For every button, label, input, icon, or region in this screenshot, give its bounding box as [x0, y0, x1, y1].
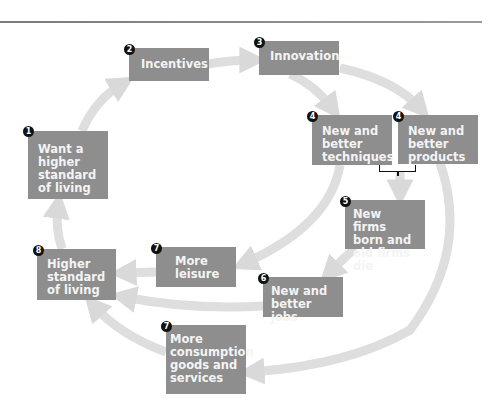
- node-new-firms: New firms born and old firms die: [345, 200, 425, 249]
- step-marker-6: 6: [258, 273, 269, 284]
- arrow-want-to-incentives: [82, 84, 122, 131]
- node-new-techniques: New and better techniques: [312, 115, 392, 165]
- arrow-consumption-to-higher: [94, 306, 166, 352]
- step-marker-2: 2: [124, 44, 135, 55]
- arrow-innovation-to-techniques: [290, 74, 332, 108]
- step-marker-5: 5: [340, 196, 351, 207]
- bracket-stem: [397, 171, 399, 176]
- node-want-higher-standard: Want a higher standard of living: [28, 131, 108, 199]
- step-marker-3: 3: [254, 37, 265, 48]
- step-marker-7-consumption: 7: [161, 321, 172, 332]
- arrow-higher-to-want: [57, 206, 62, 249]
- node-higher-standard: Higher standard of living: [37, 249, 116, 300]
- node-incentives: Incentives: [129, 48, 209, 81]
- arrow-incentives-to-innovation: [208, 60, 252, 64]
- arrow-products-to-consumption: [252, 163, 450, 372]
- node-new-jobs: New and better jobs: [263, 277, 343, 317]
- step-marker-8: 8: [33, 245, 44, 256]
- step-marker-7-leisure: 7: [151, 243, 162, 254]
- node-more-consumption: More consumption goods and services: [166, 325, 246, 394]
- node-innovation: Innovation: [259, 41, 339, 75]
- arrow-jobs-to-higher: [124, 297, 263, 307]
- node-new-products: New and better products: [398, 115, 478, 164]
- step-marker-4-products: 4: [393, 111, 404, 122]
- step-marker-1: 1: [23, 126, 34, 137]
- node-more-leisure: More leisure: [156, 247, 236, 287]
- arrow-innovation-to-products: [340, 68, 420, 108]
- arrow-firms-to-jobs: [330, 248, 355, 272]
- arrow-leisure-to-higher: [124, 272, 156, 273]
- arrow-techniques-to-leisure: [245, 165, 340, 263]
- step-marker-4-techniques: 4: [307, 111, 318, 122]
